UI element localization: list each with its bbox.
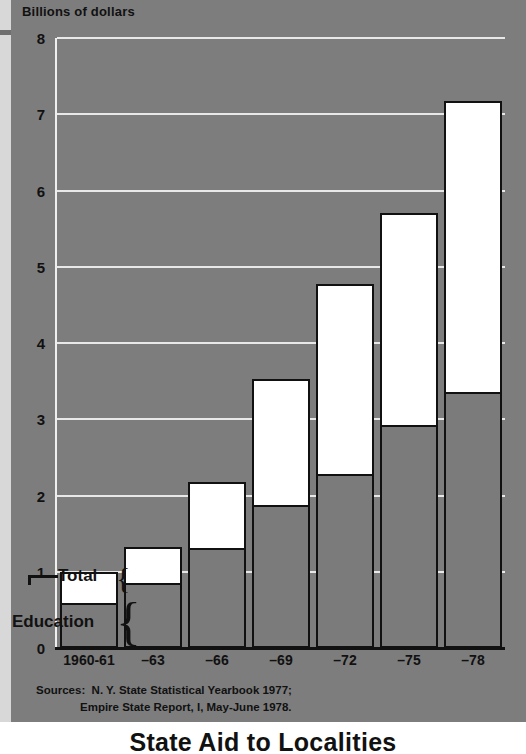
legend-total-brace: { [116, 563, 130, 593]
y-tick-label: 7 [5, 106, 45, 123]
x-tick-label: –72 [333, 652, 356, 668]
sources-note: Sources: N. Y. State Statistical Yearboo… [36, 682, 292, 715]
y-tick-labels: 012345678 [57, 38, 505, 648]
legend-total-label: Total [58, 566, 97, 586]
sources-line-2: Empire State Report, I, May-June 1978. [36, 701, 292, 713]
x-tick-label: –69 [269, 652, 292, 668]
x-tick-label: –78 [461, 652, 484, 668]
x-tick-label: –75 [397, 652, 420, 668]
y-tick-label: 6 [5, 182, 45, 199]
chart-bottom-title: State Aid to Localities [0, 728, 526, 754]
chart-panel: Billions of dollars 012345678 1960-61–63… [0, 0, 526, 722]
y-tick-label: 0 [5, 640, 45, 657]
chart-page: Billions of dollars 012345678 1960-61–63… [0, 0, 526, 754]
y-tick-label: 2 [5, 487, 45, 504]
total-leader-tick [28, 575, 31, 585]
legend-education-label: Education [12, 612, 94, 632]
x-tick-label: –66 [205, 652, 228, 668]
sources-line-1: Sources: N. Y. State Statistical Yearboo… [36, 684, 292, 696]
y-tick-label: 5 [5, 258, 45, 275]
legend-education-brace: { [116, 596, 141, 648]
x-tick-label: 1960-61 [63, 652, 114, 668]
y-tick-label: 4 [5, 335, 45, 352]
y-axis-title: Billions of dollars [22, 4, 135, 19]
y-tick-label: 8 [5, 30, 45, 47]
x-tick-label: –63 [141, 652, 164, 668]
y-tick-label: 3 [5, 411, 45, 428]
total-leader-line [28, 575, 58, 578]
